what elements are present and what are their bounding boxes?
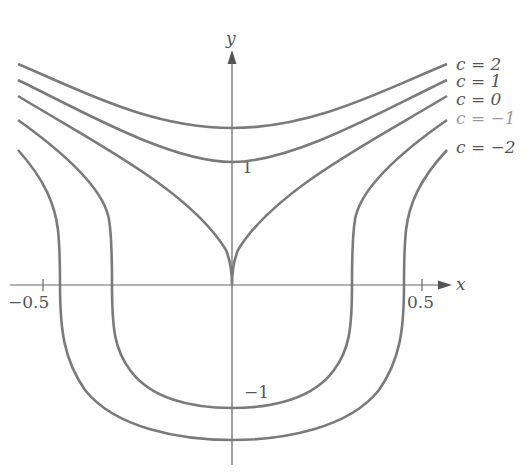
legend-label-c-0: c = 0 [456,89,502,109]
y-axis-label: y [225,28,236,48]
legend-label-c-neg2: c = −2 [456,137,516,157]
y-axis-arrow-icon [228,50,237,64]
x-tick-label-neg-half: −0.5 [8,292,49,312]
legend-label-c-neg1: c = −1 [456,108,516,128]
axes [10,50,452,465]
legend: c = 2 c = 1 c = 0 c = −1 c = −2 [456,54,516,157]
y-tick-label-neg-one: −1 [244,382,269,402]
chart-canvas: y x −0.5 0.5 1 −1 c = 2 c = 1 c = 0 c = … [0,0,532,474]
x-axis-arrow-icon [438,281,452,290]
legend-label-c-1: c = 1 [456,71,501,91]
x-axis-label: x [456,274,466,294]
x-tick-label-pos-half: 0.5 [407,292,434,312]
